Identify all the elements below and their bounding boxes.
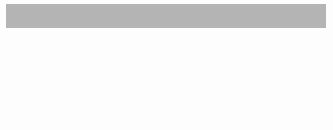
attention-diagram-canvas (0, 0, 333, 130)
attention-edge-layer (0, 0, 333, 130)
